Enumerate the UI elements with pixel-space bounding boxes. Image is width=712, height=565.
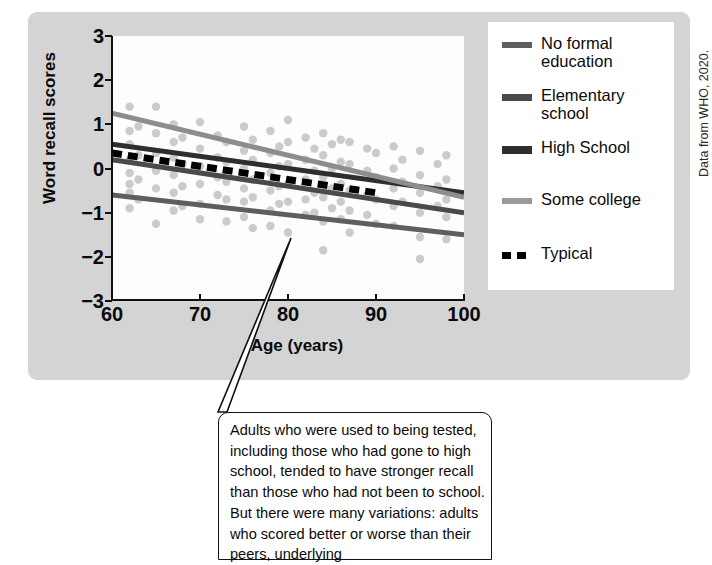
y-tick-mark <box>105 123 112 125</box>
x-tick-label: 90 <box>346 304 406 324</box>
legend-label: Elementary school <box>541 86 624 123</box>
x-tick-label: 100 <box>434 304 494 324</box>
y-tick-label: 2 <box>68 70 104 90</box>
y-tick-label: 3 <box>68 26 104 46</box>
legend-item-elementary-school[interactable]: Elementary school <box>502 86 624 123</box>
legend-swatch-line-icon <box>502 198 532 204</box>
legend-item-no-formal-education[interactable]: No formal education <box>502 34 613 71</box>
x-tick-mark <box>375 294 377 301</box>
legend-swatch-dashed-line-icon <box>502 252 532 259</box>
regression-line <box>112 195 464 235</box>
x-tick-mark <box>111 294 113 301</box>
legend-swatch-line-icon <box>502 146 532 154</box>
y-tick-mark <box>105 212 112 214</box>
y-axis-title: Word recall scores <box>40 28 60 228</box>
legend-item-typical[interactable]: Typical <box>502 244 592 262</box>
y-tick-label: 0 <box>68 159 104 179</box>
legend-item-some-college[interactable]: Some college <box>502 190 641 208</box>
legend-label: Some college <box>541 190 641 208</box>
legend-item-high-school[interactable]: High School <box>502 138 630 156</box>
legend-swatch-line-icon <box>502 94 532 101</box>
x-tick-label: 60 <box>82 304 142 324</box>
legend-label: No formal education <box>541 34 613 71</box>
legend-swatch-line-icon <box>502 42 532 48</box>
legend-label: Typical <box>541 244 592 262</box>
y-tick-label: −1 <box>68 203 104 223</box>
x-tick-mark <box>463 294 465 301</box>
callout-text: Adults who were used to being tested, in… <box>230 420 486 565</box>
source-attribution: Data from WHO, 2020. <box>697 7 711 177</box>
y-tick-label: 1 <box>68 114 104 134</box>
callout-box: Adults who were used to being tested, in… <box>218 412 492 560</box>
y-tick-mark <box>105 79 112 81</box>
y-tick-label: −2 <box>68 247 104 267</box>
legend-label: High School <box>541 138 630 156</box>
y-tick-mark <box>105 256 112 258</box>
y-tick-mark <box>105 35 112 37</box>
legend: No formal education Elementary school Hi… <box>488 22 674 290</box>
y-tick-mark <box>105 168 112 170</box>
callout-pointer-icon <box>180 230 310 420</box>
